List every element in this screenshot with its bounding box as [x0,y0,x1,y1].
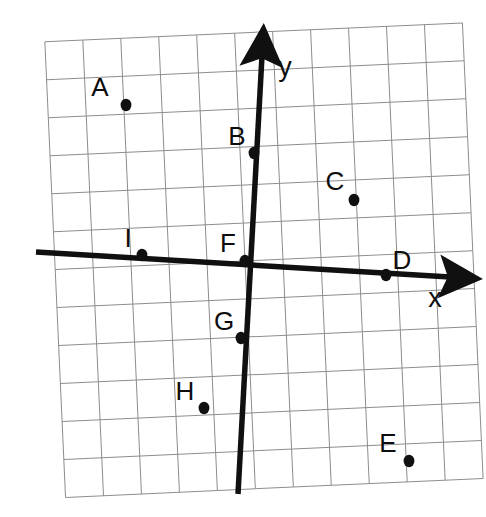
plot-canvas: xy ABCDEFGHI [0,0,486,517]
axis-label-y: y [278,52,292,82]
point-marker-g[interactable] [236,332,247,344]
point-marker-i[interactable] [137,249,148,261]
point-label-g: G [214,306,234,336]
point-marker-a[interactable] [121,99,132,111]
point-label-c: C [326,166,345,196]
axis-label-x: x [428,283,442,313]
coordinate-plane-figure: xy ABCDEFGHI [0,0,486,517]
point-label-d: D [393,245,412,275]
point-marker-c[interactable] [349,194,360,206]
point-label-f: F [220,228,236,258]
point-marker-e[interactable] [404,455,415,467]
point-label-b: B [228,121,245,151]
point-label-h: H [176,376,195,406]
point-marker-d[interactable] [381,269,392,281]
point-label-a: A [91,72,109,102]
point-label-e: E [379,428,396,458]
point-marker-f[interactable] [240,255,251,267]
point-marker-h[interactable] [199,402,210,414]
point-label-i: I [124,223,131,253]
point-marker-b[interactable] [249,147,260,159]
